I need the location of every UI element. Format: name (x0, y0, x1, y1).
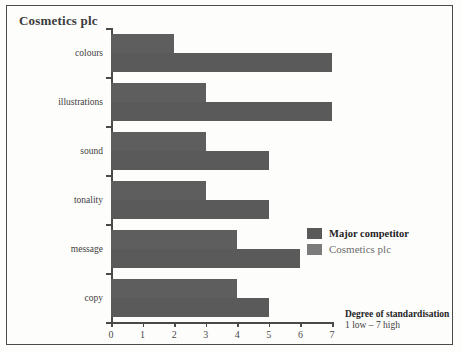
y-tick-mark (106, 28, 111, 30)
x-tick-label: 1 (140, 329, 145, 340)
chart-legend: Major competitor Cosmetics plc (307, 228, 409, 259)
bar (111, 279, 237, 298)
y-tick-mark (106, 175, 111, 177)
bar (111, 249, 300, 268)
bar (111, 132, 206, 151)
category-label: illustrations (7, 97, 103, 107)
category-label: message (7, 244, 103, 254)
y-tick-mark (106, 224, 111, 226)
bar (111, 83, 206, 102)
x-tick-mark (111, 322, 113, 327)
legend-item-cosmetics-plc: Cosmetics plc (307, 243, 409, 255)
x-tick-mark (300, 322, 302, 327)
bar (111, 298, 269, 317)
legend-label: Cosmetics plc (329, 243, 391, 255)
x-tick-mark (174, 322, 176, 327)
x-tick-label: 7 (330, 329, 335, 340)
legend-swatch-icon (307, 244, 322, 255)
x-axis-caption-scale: 1 low – 7 high (345, 320, 449, 331)
category-label: tonality (7, 195, 103, 205)
x-tick-mark (143, 322, 145, 327)
y-tick-mark (106, 273, 111, 275)
bar (111, 230, 237, 249)
x-tick-mark (237, 322, 239, 327)
legend-swatch-icon (307, 228, 322, 239)
bar (111, 200, 269, 219)
chart-figure: Cosmetics plc 01234567 coloursillustrati… (6, 5, 453, 345)
x-tick-label: 5 (266, 329, 271, 340)
category-label: sound (7, 146, 103, 156)
y-tick-mark (106, 126, 111, 128)
y-tick-mark (106, 77, 111, 79)
x-axis-line (111, 322, 332, 324)
x-tick-mark (206, 322, 208, 327)
x-tick-label: 3 (203, 329, 208, 340)
x-axis-caption: Degree of standardisation 1 low – 7 high (345, 309, 449, 331)
plot-area: 01234567 (111, 28, 451, 324)
bar (111, 151, 269, 170)
bar (111, 34, 174, 53)
x-tick-label: 4 (235, 329, 240, 340)
bar (111, 102, 332, 121)
chart-title: Cosmetics plc (19, 13, 98, 29)
legend-label: Major competitor (329, 228, 409, 239)
category-label: colours (7, 48, 103, 58)
legend-item-major-competitor: Major competitor (307, 228, 409, 239)
category-label: copy (7, 293, 103, 303)
x-tick-mark (332, 322, 334, 327)
bar (111, 181, 206, 200)
x-tick-label: 0 (109, 329, 114, 340)
bar (111, 53, 332, 72)
x-tick-label: 6 (298, 329, 303, 340)
x-tick-label: 2 (172, 329, 177, 340)
x-tick-mark (269, 322, 271, 327)
x-axis-caption-title: Degree of standardisation (345, 309, 449, 320)
